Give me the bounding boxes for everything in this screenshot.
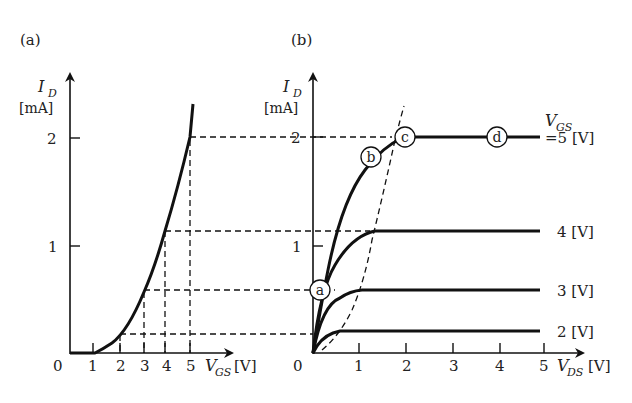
- x-axis-b-sub: DS: [566, 366, 584, 379]
- figure: (a) I D [mA] 0 V GS [V] 2 1 1 2 3 4 5: [0, 0, 632, 403]
- x-axis-a-sub: GS: [215, 366, 232, 379]
- x-tick-b-2: 2: [402, 357, 412, 375]
- y-axis-b-sub: D: [292, 87, 302, 100]
- x-tick-b-3: 3: [449, 357, 459, 375]
- y-tick-a-1: 1: [48, 238, 58, 256]
- y-axis-b-symbol: I: [282, 77, 290, 96]
- curve-label-2v: 2 [V]: [557, 323, 594, 341]
- y-tick-a-2: 2: [47, 130, 57, 148]
- curve-vgs-2: [313, 331, 540, 353]
- x-tick-b-1: 1: [354, 357, 364, 375]
- x-tick-a-3: 3: [140, 357, 150, 375]
- curve-label-4v: 4 [V]: [557, 223, 594, 241]
- x-axis-a-unit: [V]: [234, 357, 257, 375]
- origin-a: 0: [53, 357, 63, 375]
- panel-b-title: (b): [291, 31, 312, 49]
- x-tick-a-1: 1: [88, 357, 98, 375]
- x-tick-a-5: 5: [186, 357, 196, 375]
- curve-label-3v: 3 [V]: [557, 282, 594, 300]
- y-axis-a-unit: [mA]: [19, 100, 53, 116]
- y-tick-b-2: 2: [291, 129, 301, 147]
- point-c-label: c: [401, 129, 409, 145]
- panel-a: (a) I D [mA] 0 V GS [V] 2 1 1 2 3 4 5: [19, 31, 257, 379]
- y-axis-b-unit: [mA]: [264, 100, 298, 116]
- curve-label-5v: =5 [V]: [545, 129, 594, 147]
- cross-panel-guides: [120, 137, 392, 334]
- transfer-curve: [70, 104, 193, 353]
- point-b: b: [361, 147, 381, 167]
- point-d: d: [487, 127, 507, 147]
- origin-b: 0: [293, 357, 303, 375]
- x-tick-a-4: 4: [162, 357, 172, 375]
- y-axis-a-sub: D: [47, 87, 57, 100]
- curve-vgs-5: [313, 137, 540, 353]
- y-axis-a-symbol: I: [37, 77, 45, 96]
- point-c: c: [395, 127, 415, 147]
- point-b-label: b: [367, 149, 376, 165]
- panel-a-title: (a): [20, 31, 41, 49]
- x-tick-b-4: 4: [495, 357, 505, 375]
- point-d-label: d: [493, 129, 502, 145]
- x-axis-b-unit: [V]: [588, 357, 611, 375]
- point-a-label: a: [316, 282, 324, 298]
- curve-vgs-3: [313, 290, 540, 353]
- x-tick-a-2: 2: [116, 357, 126, 375]
- output-curves: [313, 137, 540, 353]
- point-a: a: [310, 280, 330, 300]
- panel-b: (b) I D [mA] 0 V DS [V] 2 1 1 2 3 4 5: [264, 31, 611, 379]
- curve-vgs-4: [313, 231, 540, 353]
- y-tick-b-1: 1: [292, 238, 302, 256]
- x-tick-b-5: 5: [539, 357, 549, 375]
